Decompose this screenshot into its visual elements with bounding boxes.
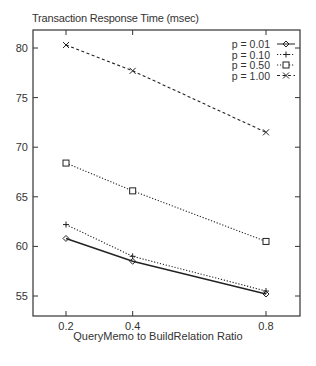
- y-tick-label: 55: [16, 290, 28, 302]
- data-point-square-icon: [130, 188, 136, 194]
- legend-plus-icon: [283, 52, 289, 58]
- data-point-cross-icon: [263, 129, 269, 135]
- data-point-plus-icon: [130, 253, 136, 259]
- data-point-cross-icon: [130, 68, 136, 74]
- series-line: [66, 238, 266, 294]
- y-tick-label: 75: [16, 92, 28, 104]
- legend-label: p = 1.00: [232, 70, 270, 82]
- y-tick-label: 70: [16, 141, 28, 153]
- data-point-cross-icon: [63, 42, 69, 48]
- line-chart: 5560657075800.20.40.8p = 0.01p = 0.10p =…: [0, 0, 316, 366]
- data-point-plus-icon: [63, 222, 69, 228]
- data-point-square-icon: [63, 160, 69, 166]
- y-tick-label: 65: [16, 191, 28, 203]
- y-tick-label: 80: [16, 42, 28, 54]
- series-line: [66, 163, 266, 241]
- y-tick-label: 60: [16, 240, 28, 252]
- x-axis-label: QueryMemo to BuildRelation Ratio: [0, 330, 316, 342]
- data-point-square-icon: [263, 238, 269, 244]
- legend-square-icon: [283, 62, 289, 68]
- series-line: [66, 225, 266, 291]
